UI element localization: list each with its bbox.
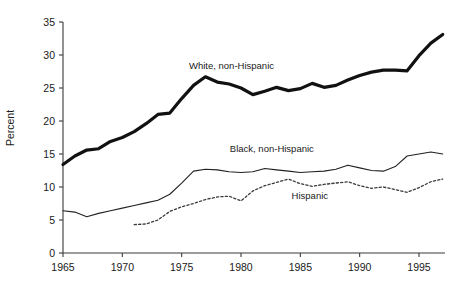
x-tick-label: 1980 (229, 261, 253, 273)
y-tick-label: 15 (43, 148, 55, 160)
x-tick-label: 1970 (111, 261, 135, 273)
x-tick-label: 1990 (348, 261, 372, 273)
y-tick-label: 30 (43, 49, 55, 61)
y-axis-title: Percent (4, 110, 16, 146)
y-tick-label: 35 (43, 16, 55, 28)
x-tick-label: 1985 (289, 261, 313, 273)
y-tick-label: 10 (43, 181, 55, 193)
x-tick-label: 1975 (170, 261, 194, 273)
chart-container: 05101520253035 1965197019751980198519901… (0, 0, 459, 289)
y-tick-label: 5 (49, 214, 55, 226)
series-label-white-non-hispanic: White, non-Hispanic (189, 60, 274, 71)
x-tick-label: 1995 (407, 261, 431, 273)
series-label-hispanic: Hispanic (292, 190, 329, 201)
percent-by-race-line-chart: 05101520253035 1965197019751980198519901… (0, 0, 459, 289)
x-tick-label: 1965 (51, 261, 75, 273)
y-tick-label: 25 (43, 82, 55, 94)
y-tick-label: 0 (49, 247, 55, 259)
series-label-black-non-hispanic: Black, non-Hispanic (230, 143, 314, 154)
y-tick-label: 20 (43, 115, 55, 127)
